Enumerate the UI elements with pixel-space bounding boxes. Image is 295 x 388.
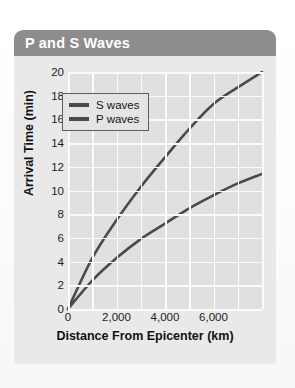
x-tick-label: 4,000 xyxy=(151,311,180,323)
legend-item-s-waves: S waves xyxy=(69,98,139,112)
x-tick-label: 0 xyxy=(65,311,71,323)
gridline-vertical xyxy=(262,72,264,309)
legend-swatch-s-waves xyxy=(69,103,89,107)
chart-legend: S waves P waves xyxy=(62,93,149,131)
gridline-horizontal xyxy=(68,143,262,145)
gridline-horizontal xyxy=(68,262,262,264)
page-title: P and S Waves xyxy=(25,35,130,51)
card-title-bar: P and S Waves xyxy=(14,30,276,56)
legend-label-p-waves: P waves xyxy=(96,113,139,125)
gridline-horizontal xyxy=(68,72,262,74)
gridline-horizontal xyxy=(68,214,262,216)
chart-container: Arrival Time (min) 02468101214161820 02,… xyxy=(14,56,276,364)
gridline-horizontal xyxy=(68,238,262,240)
y-tick-label: 12 xyxy=(51,161,64,173)
y-tick-label: 2 xyxy=(58,279,64,291)
y-tick-label: 20 xyxy=(51,66,64,78)
legend-item-p-waves: P waves xyxy=(69,112,139,126)
y-tick-label: 4 xyxy=(58,256,64,268)
x-tick-label: 2,000 xyxy=(102,311,131,323)
x-tick-label: 6,000 xyxy=(199,311,228,323)
y-tick-label: 8 xyxy=(58,208,64,220)
y-tick-label: 6 xyxy=(58,232,64,244)
gridline-horizontal xyxy=(68,167,262,169)
y-axis-title: Arrival Time (min) xyxy=(22,83,36,203)
legend-label-s-waves: S waves xyxy=(96,99,139,111)
chart-card: P and S Waves Arrival Time (min) 0246810… xyxy=(14,30,276,364)
y-tick-label: 0 xyxy=(58,303,64,315)
y-tick-label: 14 xyxy=(51,137,64,149)
y-axis-tick-labels: 02468101214161820 xyxy=(36,72,64,309)
y-tick-label: 10 xyxy=(51,185,64,197)
x-axis-title: Distance From Epicenter (km) xyxy=(14,329,276,343)
gridline-horizontal xyxy=(68,191,262,193)
gridline-horizontal xyxy=(68,285,262,287)
legend-swatch-p-waves xyxy=(69,117,89,121)
x-axis-tick-labels: 02,0004,0006,000 xyxy=(68,311,262,327)
